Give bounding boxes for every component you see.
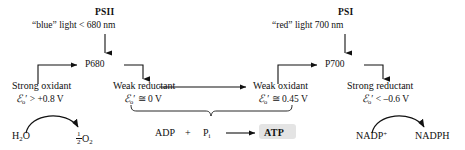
psi-weak-oxidant-label: Weak oxidant [253, 81, 308, 91]
redox-prime: ′ [133, 94, 135, 104]
psii-weak-reductant-label: Weak reductant [113, 81, 175, 91]
psii-strong-oxidant-label: Strong oxidant [12, 81, 71, 91]
redox-value: < –0.6 V [376, 94, 409, 104]
nadp-plus-label: NADP+ [356, 131, 387, 141]
adp-label: ADP [155, 128, 175, 138]
water-splitting-arrow [26, 116, 78, 133]
psi-strong-reductant-potential: ℰo′ < –0.6 V [362, 93, 409, 105]
nadph-label: NADPH [415, 131, 449, 141]
psi-light-label: “red” light 700 nm [272, 21, 344, 31]
nadp-text: NADP [356, 130, 383, 141]
inorganic-phosphate-label: Pi [203, 128, 210, 139]
psii-light-label: “blue” light < 680 nm [32, 21, 115, 31]
psi-electron-donation-path [364, 65, 383, 79]
water-o: O [23, 130, 30, 141]
psi-strong-reductant-label: Strong reductant [347, 81, 413, 91]
psii-title: PSII [95, 8, 114, 18]
atp-label: ATP [264, 128, 284, 138]
psi-reaction-center-p700: P700 [325, 60, 345, 70]
nadp-charge: + [383, 130, 387, 137]
redox-value: ≅ 0 V [138, 94, 162, 104]
psii-strong-oxidant-potential: ℰo′ > +0.8 V [16, 93, 64, 105]
psii-reaction-center-p680: P680 [85, 60, 105, 70]
psii-weak-reductant-potential: ℰo′ ≅ 0 V [124, 93, 162, 105]
psi-weak-oxidant-potential: ℰo′ ≅ 0.45 V [258, 93, 308, 105]
fraction-denominator: 2 [76, 139, 82, 146]
phosphate-sub: i [209, 132, 211, 139]
water-molecule-label: H2O [12, 131, 30, 142]
z-scheme-diagram: PSII “blue” light < 680 nm PSI “red” lig… [0, 0, 465, 150]
oxygen-molecule-label: 12O2 [76, 131, 93, 147]
redox-value: > +0.8 V [30, 94, 64, 104]
half-coefficient: 12 [76, 131, 82, 147]
psii-electron-donation-path [124, 65, 143, 79]
redox-prime: ′ [267, 94, 269, 104]
photophosphorylation-brace [131, 105, 292, 116]
redox-prime: ′ [371, 94, 373, 104]
redox-value: ≅ 0.45 V [272, 94, 308, 104]
oxygen-sub: 2 [89, 138, 92, 145]
redox-prime: ′ [25, 94, 27, 104]
psi-title: PSI [338, 8, 353, 18]
plus-sign: + [185, 128, 191, 138]
